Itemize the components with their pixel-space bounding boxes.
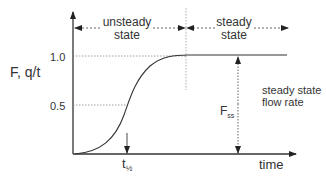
fss-subscript: ss — [227, 112, 234, 119]
fss-label: Fss — [220, 105, 234, 120]
unsteady-state-label: unsteady state — [100, 16, 154, 42]
t-half-subscript: ½ — [126, 164, 133, 173]
sigmoid-curve — [75, 55, 287, 154]
fss-description: steady state flow rate — [262, 84, 321, 108]
y-axis-label: F, q/t — [10, 65, 40, 80]
y-tick-0-5: 0.5 — [50, 100, 65, 112]
unsteady-line2: state — [100, 29, 154, 42]
steady-state-label: steady state — [212, 16, 256, 42]
x-axis-label: time — [259, 158, 284, 172]
t-half-label: t½ — [122, 157, 132, 174]
y-tick-1-0: 1.0 — [50, 51, 65, 63]
fss-desc-line1: steady state — [262, 84, 321, 96]
steady-line2: state — [212, 29, 256, 42]
fss-desc-line2: flow rate — [262, 96, 321, 108]
